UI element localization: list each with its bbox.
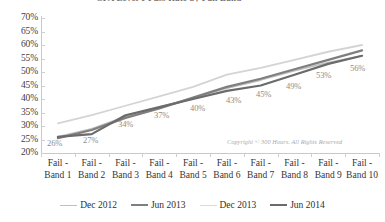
legend-label: Jun 2014 [290, 200, 325, 210]
x-category-line2: Band 9 [311, 170, 345, 182]
x-tick-mark [41, 153, 42, 157]
data-label: 53% [316, 71, 331, 80]
legend-item[interactable]: Jun 2014 [270, 200, 325, 210]
x-tick-mark [345, 153, 346, 157]
legend-item[interactable]: Dec 2012 [60, 200, 117, 210]
x-tick-mark [244, 153, 245, 157]
x-category-line1: Fail - [176, 158, 210, 170]
x-category-line1: Fail - [41, 158, 75, 170]
x-tick-mark [379, 153, 380, 157]
x-category-line2: Band 8 [278, 170, 312, 182]
y-tick-mark [41, 99, 45, 100]
data-label: 56% [350, 64, 365, 73]
x-category-line2: Band 10 [345, 170, 379, 182]
x-category-line1: Fail - [278, 158, 312, 170]
data-label: 37% [154, 111, 169, 120]
y-tick-mark [41, 59, 45, 60]
data-label: 49% [286, 82, 301, 91]
y-tick-mark [41, 86, 45, 87]
data-label: 26% [47, 139, 62, 148]
y-tick-mark [41, 140, 45, 141]
y-tick-mark [41, 113, 45, 114]
x-category-line1: Fail - [244, 158, 278, 170]
y-tick-mark [41, 18, 45, 19]
legend-label: Dec 2012 [80, 200, 117, 210]
y-tick-mark [41, 126, 45, 127]
x-category-line1: Fail - [345, 158, 379, 170]
x-category-line2: Band 3 [109, 170, 143, 182]
x-tick-mark [109, 153, 110, 157]
x-category-line2: Band 4 [142, 170, 176, 182]
legend-swatch-icon [270, 204, 287, 206]
legend-item[interactable]: Dec 2013 [200, 200, 257, 210]
data-label: 43% [226, 96, 241, 105]
x-category-line2: Band 1 [41, 170, 75, 182]
x-category-line1: Fail - [210, 158, 244, 170]
x-category-label: Fail -Band 3 [109, 158, 143, 181]
x-category-label: Fail -Band 5 [176, 158, 210, 181]
data-label: 45% [256, 90, 271, 99]
x-tick-mark [75, 153, 76, 157]
x-category-line2: Band 6 [210, 170, 244, 182]
y-tick-mark [41, 72, 45, 73]
x-category-line1: Fail - [311, 158, 345, 170]
x-category-label: Fail -Band 9 [311, 158, 345, 181]
x-category-line1: Fail - [109, 158, 143, 170]
x-category-label: Fail -Band 10 [345, 158, 379, 181]
x-category-label: Fail -Band 7 [244, 158, 278, 181]
x-category-label: Fail -Band 4 [142, 158, 176, 181]
y-tick-mark [41, 32, 45, 33]
x-tick-mark [278, 153, 279, 157]
x-category-label: Fail -Band 8 [278, 158, 312, 181]
y-tick-mark [41, 45, 45, 46]
data-label: 27% [83, 136, 98, 145]
x-category-line1: Fail - [142, 158, 176, 170]
legend-swatch-icon [200, 205, 217, 206]
data-label: 34% [118, 120, 133, 129]
x-category-line1: Fail - [75, 158, 109, 170]
legend-swatch-icon [60, 205, 77, 206]
x-tick-mark [142, 153, 143, 157]
chart-legend: Dec 2012Jun 2013Dec 2013Jun 2014 [0, 196, 385, 214]
x-category-label: Fail -Band 6 [210, 158, 244, 181]
chart-container: CFA Level 1 Pass Rate by Fail Band 70%65… [0, 0, 385, 222]
legend-item[interactable]: Jun 2013 [131, 200, 186, 210]
x-tick-mark [210, 153, 211, 157]
copyright-annotation: Copyright © 300 Hours. All Rights Reserv… [227, 138, 342, 145]
x-category-label: Fail -Band 1 [41, 158, 75, 181]
x-category-line2: Band 5 [176, 170, 210, 182]
data-label: 40% [190, 104, 205, 113]
legend-label: Jun 2013 [151, 200, 186, 210]
x-category-line2: Band 7 [244, 170, 278, 182]
x-tick-mark [311, 153, 312, 157]
legend-swatch-icon [131, 204, 148, 206]
x-category-line2: Band 2 [75, 170, 109, 182]
x-tick-mark [176, 153, 177, 157]
legend-label: Dec 2013 [220, 200, 257, 210]
series-line [58, 45, 362, 123]
x-category-label: Fail -Band 2 [75, 158, 109, 181]
